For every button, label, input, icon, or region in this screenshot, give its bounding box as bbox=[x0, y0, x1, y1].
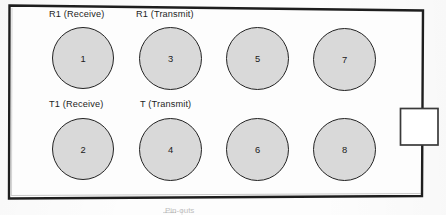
body-left-inner-line bbox=[12, 8, 13, 195]
terminal-6[interactable]: 6 bbox=[226, 118, 289, 181]
terminal-number: 3 bbox=[168, 53, 173, 64]
terminal-number: 2 bbox=[80, 143, 85, 154]
terminal-label-t-transmit: T (Transmit) bbox=[140, 99, 191, 109]
terminal-number: 7 bbox=[342, 54, 347, 65]
terminal-number: 1 bbox=[80, 52, 85, 63]
latch-tab bbox=[401, 109, 439, 146]
terminal-1[interactable]: 1 bbox=[52, 27, 114, 89]
terminal-5[interactable]: 5 bbox=[226, 27, 289, 90]
terminal-2[interactable]: 2 bbox=[52, 118, 114, 180]
terminal-8[interactable]: 8 bbox=[313, 118, 376, 181]
terminal-7[interactable]: 7 bbox=[313, 28, 376, 91]
terminal-4[interactable]: 4 bbox=[139, 118, 202, 181]
terminal-number: 4 bbox=[168, 144, 173, 155]
terminal-number: 5 bbox=[255, 53, 260, 64]
terminal-label-r1-receive: R1 (Receive) bbox=[49, 9, 104, 19]
terminal-label-t1-receive: T1 (Receive) bbox=[49, 99, 103, 109]
caption-fragment: Pin-outs bbox=[165, 206, 194, 215]
terminal-3[interactable]: 3 bbox=[139, 27, 202, 90]
terminal-label-r1-transmit: R1 (Transmit) bbox=[136, 9, 194, 19]
diagram-canvas: R1 (Receive) R1 (Transmit) T1 (Receive) … bbox=[0, 0, 446, 215]
terminal-number: 6 bbox=[255, 144, 260, 155]
terminal-number: 8 bbox=[342, 144, 347, 155]
